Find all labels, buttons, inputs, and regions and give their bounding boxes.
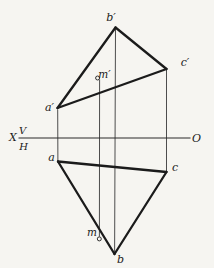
label-axis-o: O [192, 132, 201, 145]
label-b-prime: b′ [106, 11, 116, 24]
projection-diagram: b′c′m′a′acmbXVHO [0, 0, 214, 268]
label-a-prime: a′ [45, 101, 55, 114]
scanned-textbook-figure: b′c′m′a′acmbXVHO [0, 0, 214, 268]
label-axis-x: X [8, 131, 18, 144]
label-m-prime: m′ [98, 68, 111, 80]
point-marker-m [97, 237, 101, 241]
label-axis-h: H [18, 141, 28, 152]
label-c-prime: c′ [181, 56, 190, 69]
label-c: c [172, 161, 178, 174]
label-b: b [117, 253, 124, 266]
label-m: m [87, 226, 97, 238]
label-a: a [48, 151, 55, 164]
